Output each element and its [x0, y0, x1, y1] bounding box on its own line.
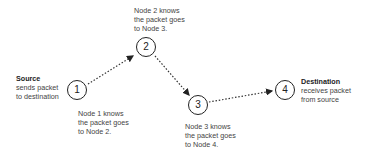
node1-annotation-line2: the packet goes	[78, 118, 129, 127]
node1-annotation-line3: to Node 2.	[78, 127, 129, 136]
edge-3-4	[209, 91, 272, 102]
node1-annotation-line1: Node 1 knows	[78, 109, 129, 118]
node3-annotation: Node 3 knows the packet goes to Node 4.	[185, 122, 236, 149]
node2-annotation-line1: Node 2 knows	[134, 6, 185, 15]
node3-annotation-line2: the packet goes	[185, 131, 236, 140]
edge-2-3	[155, 56, 189, 95]
source-line2: to destination	[16, 92, 59, 101]
source-line1: sends packet	[16, 83, 59, 92]
node2-annotation-line2: the packet goes	[134, 15, 185, 24]
node-4: 4	[275, 80, 295, 100]
node1-annotation: Node 1 knows the packet goes to Node 2.	[78, 109, 129, 136]
node3-annotation-line3: to Node 4.	[185, 140, 236, 149]
source-title: Source	[16, 74, 59, 83]
destination-line1: receives packet	[301, 86, 351, 95]
destination-line2: from source	[301, 95, 351, 104]
node-1: 1	[67, 80, 87, 100]
node2-annotation-line3: to Node 3.	[134, 24, 185, 33]
edge-1-2	[88, 56, 133, 84]
node-3: 3	[188, 95, 208, 115]
node2-annotation: Node 2 knows the packet goes to Node 3.	[134, 6, 185, 33]
node-2: 2	[136, 37, 156, 57]
destination-title: Destination	[301, 77, 351, 86]
source-label: Source sends packet to destination	[16, 74, 59, 101]
destination-label: Destination receives packet from source	[301, 77, 351, 104]
node3-annotation-line1: Node 3 knows	[185, 122, 236, 131]
